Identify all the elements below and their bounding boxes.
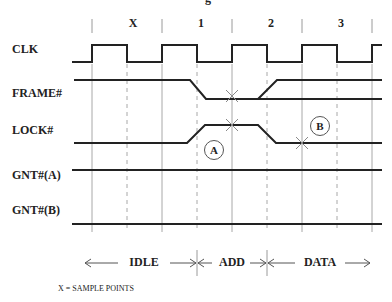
clk-waveform <box>72 45 382 62</box>
period-label-idle: IDLE <box>129 255 158 270</box>
legend-footnote: X = SAMPLE POINTS <box>58 284 134 293</box>
signal-label-lock: LOCK# <box>12 123 53 138</box>
period-label-add: ADD <box>219 255 245 270</box>
timing-diagram: g <box>0 0 392 302</box>
marker-b: B <box>310 116 330 136</box>
signal-label-gnt-b: GNT#(B) <box>12 203 60 218</box>
phase-label-2: 2 <box>268 16 274 31</box>
signal-label-frame: FRAME# <box>12 86 62 101</box>
frame-waveform <box>74 80 382 99</box>
lock-waveform <box>74 125 382 143</box>
marker-a: A <box>204 140 224 160</box>
solid-gridlines <box>92 64 372 232</box>
phase-label-3: 3 <box>338 16 344 31</box>
period-label-data: DATA <box>304 255 336 270</box>
phase-label-1: 1 <box>198 16 204 31</box>
frame-waveform-rise <box>258 80 382 99</box>
signal-label-gnt-a: GNT#(A) <box>12 168 61 183</box>
signal-label-clk: CLK <box>12 42 38 57</box>
phase-label-x: X <box>129 16 138 31</box>
